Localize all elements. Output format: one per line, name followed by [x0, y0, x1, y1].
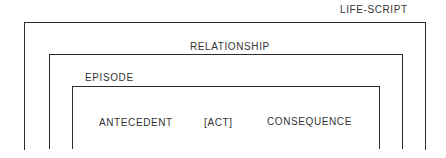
act-label: [ACT] — [204, 117, 233, 128]
relationship-label: RELATIONSHIP — [190, 41, 270, 52]
life-script-label: LIFE-SCRIPT — [340, 4, 408, 15]
antecedent-label: ANTECEDENT — [99, 117, 173, 128]
episode-label: EPISODE — [85, 72, 134, 83]
consequence-label: CONSEQUENCE — [267, 116, 352, 127]
